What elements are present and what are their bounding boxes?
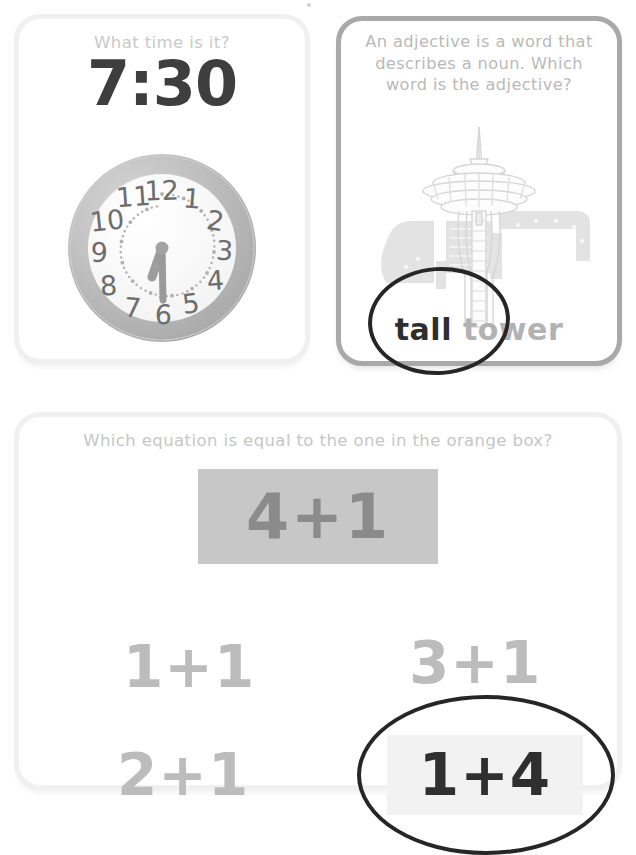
svg-text:11: 11 xyxy=(115,180,151,213)
equation-question-card[interactable]: Which equation is equal to the one in th… xyxy=(14,412,622,790)
equation-choice-1-1[interactable]: 1+1 xyxy=(123,633,255,701)
selected-answer-circle-annotation xyxy=(357,695,615,855)
svg-text:9: 9 xyxy=(90,237,108,268)
analog-clock: 12 1 2 3 4 5 6 7 8 9 10 11 xyxy=(64,148,260,344)
equation-prompt-text: Which equation is equal to the one in th… xyxy=(19,431,617,450)
svg-text:8: 8 xyxy=(99,270,118,302)
digital-time-display: 7:30 xyxy=(19,54,305,115)
svg-text:3: 3 xyxy=(215,235,234,267)
equation-choice-3-1[interactable]: 3+1 xyxy=(409,629,541,697)
clock-question-card[interactable]: What time is it? 7:30 xyxy=(14,14,310,364)
clock-center-pin xyxy=(156,242,169,255)
stray-speck xyxy=(307,3,311,7)
svg-text:1: 1 xyxy=(182,182,202,214)
equation-choice-2-1[interactable]: 2+1 xyxy=(117,741,249,809)
clock-svg: 12 1 2 3 4 5 6 7 8 9 10 11 xyxy=(64,148,260,344)
svg-text:4: 4 xyxy=(206,264,225,296)
target-equation-text: 4+1 xyxy=(246,480,390,553)
adjective-question-card[interactable]: An adjective is a word that describes a … xyxy=(336,16,622,366)
target-equation-box: 4+1 xyxy=(198,469,438,564)
svg-text:7: 7 xyxy=(123,291,142,323)
adjective-prompt-text: An adjective is a word that describes a … xyxy=(341,21,617,96)
